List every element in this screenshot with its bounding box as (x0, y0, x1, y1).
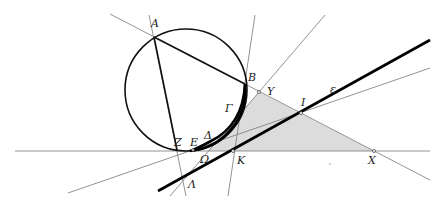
stray-dot (329, 163, 331, 165)
point-K (232, 150, 235, 153)
label-A: Α (150, 17, 159, 30)
point-X (373, 150, 376, 153)
point-Y (258, 91, 261, 94)
label-X: Χ (367, 154, 377, 167)
label-Z: Ζ (173, 136, 182, 149)
label-Omega: Ω (199, 153, 209, 166)
label-I: Ι (300, 96, 306, 109)
label-Delta: Δ (203, 129, 212, 142)
label-Lambda: Λ (187, 178, 196, 191)
segment-AZ (154, 37, 177, 150)
label-Gamma: Γ (224, 102, 233, 115)
line-epsilon (158, 40, 430, 191)
diagram-canvas: Α Β Γ Δ Ε Ζ Υ Ι ε Κ Χ Ω Λ (0, 0, 441, 207)
point-I (300, 112, 303, 115)
label-epsilon: ε (330, 83, 336, 96)
label-E: Ε (189, 136, 198, 149)
label-B: Β (247, 71, 256, 84)
segment-AB (154, 37, 245, 84)
label-K: Κ (236, 154, 246, 167)
label-Y: Υ (267, 85, 276, 98)
line-I-thin (68, 68, 430, 193)
point-E (192, 149, 195, 152)
geometry-diagram: Α Β Γ Δ Ε Ζ Υ Ι ε Κ Χ Ω Λ (0, 0, 441, 207)
